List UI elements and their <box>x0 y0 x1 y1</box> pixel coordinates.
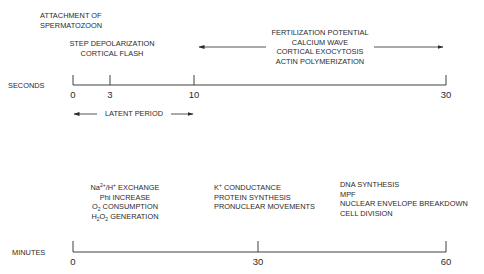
event-step-depolarization: STEP DEPOLARIZATION CORTICAL FLASH <box>62 39 162 58</box>
latent-period-label: LATENT PERIOD <box>97 109 171 119</box>
event-early-minutes: Na2+/H+ EXCHANGE Phi INCREASE O2 CONSUMP… <box>82 183 168 221</box>
event-attachment: ATTACHMENT OF SPERMATOZOON <box>40 11 102 30</box>
event-line: SPERMATOZOON <box>40 21 102 31</box>
minutes-tick-label-60: 60 <box>441 256 452 267</box>
seconds-tick-label-30: 30 <box>441 89 452 100</box>
event-line-o2-consumption: O2 CONSUMPTION <box>82 202 168 212</box>
event-line-phi-increase: Phi INCREASE <box>82 193 168 203</box>
event-line: ATTACHMENT OF <box>40 11 102 21</box>
seconds-axis-label: SECONDS <box>8 81 45 90</box>
minutes-tick-label-30: 30 <box>253 256 264 267</box>
minutes-axis <box>73 241 446 252</box>
seconds-axis <box>73 75 446 85</box>
event-middle-minutes: K+ CONDUCTANCE PROTEIN SYNTHESIS PRONUCL… <box>214 183 315 212</box>
seconds-tick-label-10: 10 <box>189 89 200 100</box>
event-line: CELL DIVISION <box>340 209 468 219</box>
event-line-protein-synthesis: PROTEIN SYNTHESIS <box>214 193 315 203</box>
minutes-tick-label-0: 0 <box>70 256 75 267</box>
seconds-tick-label-3: 3 <box>107 89 112 100</box>
event-late-minutes: DNA SYNTHESIS MPF NUCLEAR ENVELOPE BREAK… <box>340 180 468 218</box>
event-line-h2o2-generation: H2O2 GENERATION <box>82 212 168 222</box>
event-line: NUCLEAR ENVELOPE BREAKDOWN <box>340 199 468 209</box>
event-line: CORTICAL FLASH <box>62 49 162 59</box>
minutes-axis-label: MINUTES <box>12 248 45 257</box>
event-line: CORTICAL EXOCYTOSIS <box>266 47 374 57</box>
event-line-na-h-exchange: Na2+/H+ EXCHANGE <box>82 183 168 193</box>
event-line: FERTILIZATION POTENTIAL <box>266 28 374 38</box>
event-line-pronuclear-movements: PRONUCLEAR MOVEMENTS <box>214 202 315 212</box>
event-line: CALCIUM WAVE <box>266 38 374 48</box>
event-line: ACTIN POLYMERIZATION <box>266 57 374 67</box>
seconds-tick-label-0: 0 <box>70 89 75 100</box>
event-line-k-conductance: K+ CONDUCTANCE <box>214 183 315 193</box>
event-line: STEP DEPOLARIZATION <box>62 39 162 49</box>
event-line: DNA SYNTHESIS <box>340 180 468 190</box>
event-fertilization: FERTILIZATION POTENTIAL CALCIUM WAVE COR… <box>266 28 374 66</box>
event-line: MPF <box>340 190 468 200</box>
